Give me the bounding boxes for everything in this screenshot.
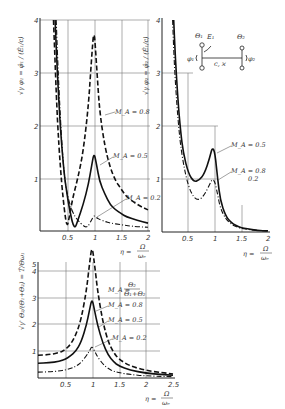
svg-text:1: 1 [34,176,38,184]
curve-m-a-0-5 [38,301,173,375]
svg-text:2: 2 [32,321,37,329]
label-ma-08: M_A = 0.8 [230,167,266,175]
svg-text:ωₑ: ωₑ [162,399,170,407]
x-ticks: 0.511.52 [182,235,271,243]
svg-text:2.5: 2.5 [168,381,180,389]
svg-text:1: 1 [156,176,160,184]
svg-text:2: 2 [156,123,161,131]
figure: 4321 0.511.52 √γ φ₁ = φ̂₁ / (Ê₁/c) M_A =… [0,0,285,409]
svg-text:Ω: Ω [139,243,146,251]
svg-text:0.5: 0.5 [182,235,194,243]
svg-text:4: 4 [156,17,160,25]
svg-text:3: 3 [34,70,38,78]
annotations: M_A = Θ₂ Θ₁+Θ₂ M_A = 0.8 M_A = 0.5 M_A =… [95,281,147,347]
x-ticks: 0.511.5 22.5 [60,381,180,389]
panel-top-left: 4321 0.511.52 √γ φ₁ = φ̂₁ / (Ê₁/c) M_A =… [16,17,161,260]
panel-bottom: 543 21 0.511.5 22.5 √γ' Θ₂/(Θ₁+Θ₂) = T̂/… [18,250,180,407]
svg-text:1: 1 [32,348,36,356]
svg-text:4: 4 [32,268,36,276]
x-axis-label: η = Ω ωₑ [243,245,272,262]
theta1-label: Θ₁ [195,32,203,40]
label-ma-05: M_A = 0.5 [107,316,143,324]
annotations: M_A = 0.5 M_A = 0.8 0.2 [217,141,266,183]
y-axis-label: √γ' Θ₂/(Θ₁+Θ₂) = T̂/Θω₁ [18,252,26,330]
annotations: M_A = 0.8 M_A = 0.5 M_A = 0.2 [97,108,161,217]
y-ticks: 543 21 [32,261,37,356]
svg-text:4: 4 [34,17,38,25]
svg-text:0.5: 0.5 [60,381,72,389]
svg-text:ωₑ: ωₑ [261,254,269,262]
y-ticks: 4321 [34,17,39,184]
svg-text:Θ₁+Θ₂: Θ₁+Θ₂ [124,290,146,298]
label-02: 0.2 [248,175,258,183]
svg-text:Θ₂: Θ₂ [128,281,136,289]
svg-text:η =: η = [120,248,131,256]
theta2-label: Θ₂ [237,33,245,41]
svg-text:1.5: 1.5 [114,381,126,389]
svg-text:1: 1 [91,381,95,389]
svg-text:2: 2 [266,235,271,243]
label-ma-05: M_A = 0.5 [230,141,266,149]
svg-text:1.5: 1.5 [116,234,128,242]
svg-text:η =: η = [243,250,254,258]
curves [38,250,173,377]
label-ma-08: M_A = 0.8 [107,301,143,309]
x-axis-label: η = Ω ωₑ [120,243,149,260]
phi2-label: φ₂ [248,55,256,63]
svg-text:0.5: 0.5 [62,234,74,242]
x-ticks: 0.511.52 [62,234,151,242]
grid [162,73,242,232]
svg-text:η =: η = [145,395,156,403]
label-ma-05: M_A = 0.5 [112,152,148,160]
panel-top-right: 4321 0.511.52 √γ φ₂ = φ̂₂ / (Ê₁/c) M_A =… [141,17,272,262]
label-ma-02: M_A = 0.2 [125,194,161,202]
curves [173,20,268,231]
x-axis-label: η = Ω ωₑ [145,390,173,407]
svg-text:1.5: 1.5 [236,235,248,243]
svg-text:1: 1 [213,235,217,243]
label-ma-08: M_A = 0.8 [114,108,150,116]
e1-label: E₁ [206,33,214,41]
spring-label: c, ϰ [214,60,227,68]
svg-text:2: 2 [34,123,39,131]
svg-text:1: 1 [93,234,97,242]
svg-text:2: 2 [144,381,149,389]
curve-m-a-0-8 [38,250,173,374]
y-axis-label: √γ φ₂ = φ̂₂ / (Ê₁/c) [141,36,150,95]
svg-text:3: 3 [156,70,160,78]
svg-text:Ω: Ω [163,390,170,398]
svg-text:2: 2 [146,234,151,242]
phi1-label: φ₁ [187,55,194,63]
svg-text:ωₑ: ωₑ [138,252,146,260]
y-ticks: 4321 [156,17,161,184]
svg-text:Ω: Ω [262,245,269,253]
y-axis-label: √γ φ₁ = φ̂₁ / (Ê₁/c) [16,36,25,95]
label-ma-02: M_A = 0.2 [111,334,147,342]
svg-text:3: 3 [32,295,36,303]
